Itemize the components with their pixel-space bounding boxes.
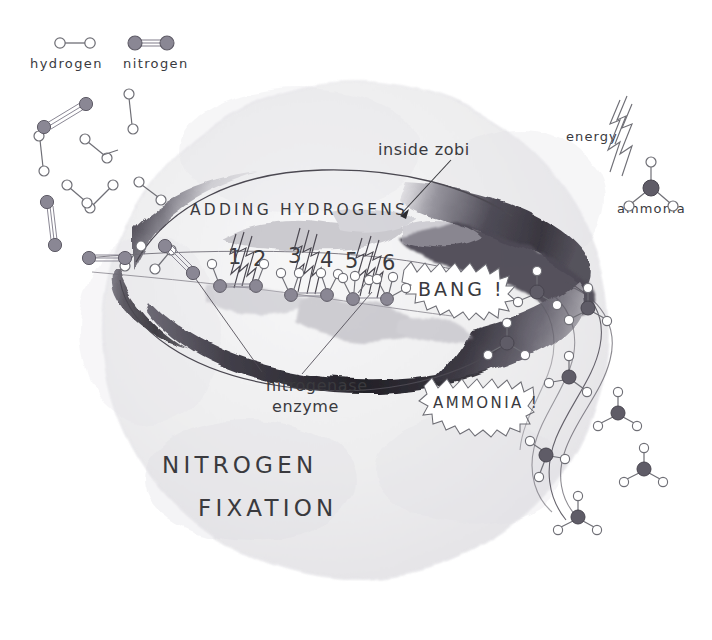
legend-molecule-hydrogen <box>55 38 95 48</box>
bang-text: BANG ! <box>418 278 505 300</box>
nitrogen-fixation-illustration: BANG ! AMMONIA ! 1 2 3 4 5 6 <box>0 0 712 640</box>
molecule-h2 <box>85 180 118 213</box>
energy-label: energy <box>566 129 618 144</box>
inside-zobi-label: inside zobi <box>378 140 470 159</box>
step-number-6: 6 <box>382 251 395 275</box>
diagram-canvas: BANG ! AMMONIA ! 1 2 3 4 5 6 <box>0 0 712 640</box>
molecule-h2 <box>80 134 112 163</box>
ammonia-burst-text: AMMONIA ! <box>433 394 539 412</box>
molecule-n2 <box>37 97 92 133</box>
step-number-5: 5 <box>345 249 358 273</box>
molecule-h2 <box>62 180 92 208</box>
legend-label-nitrogen: nitrogen <box>123 56 189 71</box>
molecule-n2 <box>40 195 61 251</box>
molecule-h2 <box>34 131 49 176</box>
title-line1: NITROGEN <box>162 452 317 478</box>
adding-hydrogens-label: ADDING HYDROGENS <box>190 201 408 219</box>
molecule-h2 <box>124 89 138 134</box>
nitrogenase-label-line2: enzyme <box>272 397 339 416</box>
title-line2: FIXATION <box>198 495 337 521</box>
molecule-nh3 <box>619 443 667 486</box>
legend-label-hydrogen: hydrogen <box>30 56 103 71</box>
nitrogenase-label-line1: nitrogenase <box>266 376 368 395</box>
legend-molecule-nitrogen <box>128 36 174 50</box>
